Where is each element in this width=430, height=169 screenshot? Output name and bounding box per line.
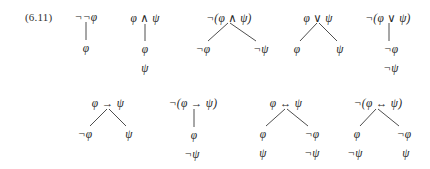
tree-node-right-child: ¬φ [397,128,412,140]
tableau-rules-figure: (6.11) ¬¬φ φ φ ∧ ψ φ ψ ¬(φ ∧ ψ) ¬φ ¬ψ φ … [0,0,430,169]
tree-node-left-child: ¬ψ [347,147,363,159]
tree-node-right-child: ψ [402,147,409,159]
tree-negated-biconditional: ¬(φ ↔ ψ) φ ¬ψ ¬φ ψ [0,0,430,169]
tree-edges-negated-biconditional [0,0,430,169]
tree-node-left-child: φ [354,128,361,140]
tree-node-root: ¬(φ ↔ ψ) [354,97,403,109]
